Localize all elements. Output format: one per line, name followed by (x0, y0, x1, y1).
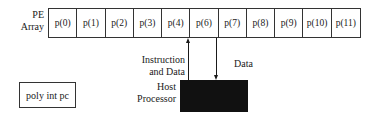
pe-cell: p(0) (49, 9, 77, 37)
host-processor-box (180, 80, 248, 112)
host-processor-label: Host Processor (114, 81, 176, 105)
instruction-label-line2: and Data (125, 66, 185, 78)
pe-array-label-line2: Array (10, 21, 44, 33)
pe-cell: p(11) (332, 9, 360, 37)
pe-cell: p(6) (190, 9, 218, 37)
host-label-line2: Processor (114, 93, 176, 105)
poly-int-pc-box: poly int pc (19, 82, 76, 108)
pe-cell: p(1) (77, 9, 105, 37)
pe-array-label-line1: PE (10, 9, 44, 21)
host-label-line1: Host (114, 81, 176, 93)
pe-cell: p(4) (162, 9, 190, 37)
pe-array-label: PE Array (10, 9, 44, 33)
instruction-data-label: Instruction and Data (125, 54, 185, 78)
data-arrow (216, 38, 217, 75)
instruction-data-arrow (188, 43, 189, 80)
pe-cell: p(3) (134, 9, 162, 37)
data-label: Data (234, 58, 253, 70)
up-arrowhead-icon (186, 38, 190, 43)
pe-cell: p(8) (247, 9, 275, 37)
pe-cell: p(9) (275, 9, 303, 37)
instruction-label-line1: Instruction (125, 54, 185, 66)
pe-cell: p(10) (303, 9, 331, 37)
pe-cell: p(2) (106, 9, 134, 37)
pe-array: p(0)p(1)p(2)p(3)p(4)p(6)p(7)p(8)p(9)p(10… (48, 8, 361, 38)
pe-cell: p(7) (219, 9, 247, 37)
poly-int-pc-label: poly int pc (26, 90, 69, 101)
